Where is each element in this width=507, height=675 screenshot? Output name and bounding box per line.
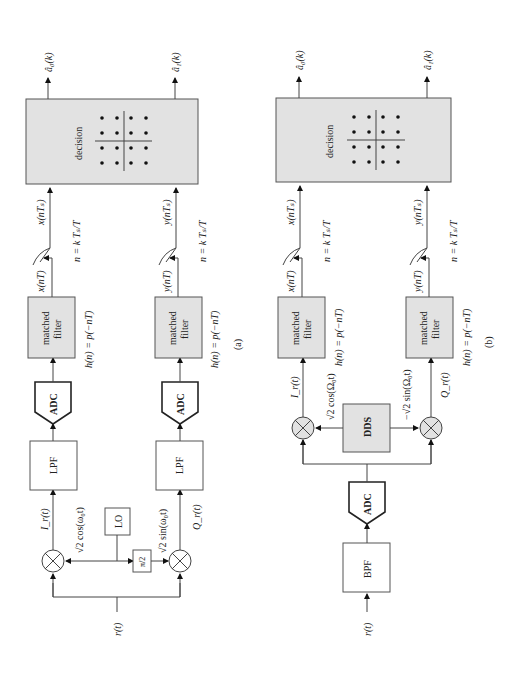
mf-i-label-1-a: matched (40, 311, 51, 345)
q-baseband-label-b: Q_r(t) (439, 372, 451, 398)
output-1-label-a: â₁(k) (170, 52, 182, 72)
y-nTs-label-b: y(nTₛ) (412, 199, 424, 226)
y-nT-label-a: y(nT) (161, 270, 173, 293)
input-label-a: r(t) (112, 622, 124, 636)
adc-i-label-a: ADC (48, 393, 59, 415)
impulse-response-i-a: h(n) = p(−nT) (83, 310, 95, 368)
bpf-label: BPF (362, 560, 373, 578)
caption-b: (b) (483, 336, 495, 348)
mixer-q-a (169, 550, 191, 572)
sin-carrier-label-b: −√2 sin(Ω₀t) (401, 369, 413, 420)
x-nT-label-b: x(nT) (285, 270, 297, 293)
mf-i-label-2-a: filter (52, 319, 63, 339)
mf-q-label-2-b: filter (430, 319, 441, 339)
output-0-label-b: â₀(k) (294, 50, 306, 70)
lpf-i-label: LPF (48, 456, 59, 474)
mixer-q-b (420, 417, 442, 439)
mf-q-label-2-a: filter (179, 319, 190, 339)
impulse-response-i-b: h(n) = p(−nT) (333, 308, 345, 366)
impulse-response-q-a: h(n) = p(−nT) (209, 310, 221, 368)
input-label-b: r(t) (362, 622, 374, 636)
output-1-label-b: â₁(k) (422, 50, 434, 70)
cos-carrier-label-a: √2 cos(ω₀t) (74, 507, 86, 553)
decision-label-a: decision (73, 127, 84, 160)
y-nT-label-b: y(nT) (412, 270, 424, 293)
phase-shift-label: π/2 (138, 557, 147, 567)
x-nT-label-a: x(nT) (35, 270, 47, 293)
sampler-q-arc-b (410, 248, 427, 265)
mf-i-label-1-b: matched (290, 311, 301, 345)
caption-a: (a) (232, 339, 244, 350)
sin-carrier-label-a: √2 sin(ω₀t) (157, 509, 169, 553)
sample-rule-i-b: n = k Tₛ/T (321, 219, 332, 262)
sample-rule-i-a: n = k Tₛ/T (71, 219, 82, 262)
mixer-i-a (42, 550, 64, 572)
x-nTs-label-a: x(nTₛ) (35, 199, 47, 226)
sample-rule-q-a: n = k Tₛ/T (197, 219, 208, 262)
cos-carrier-label-b: √2 cos(Ω₀t) (325, 373, 337, 420)
adc-q-label-a: ADC (175, 393, 186, 415)
mf-q-label-1-a: matched (167, 311, 178, 345)
lpf-q-label: LPF (174, 456, 185, 474)
adc-label-b: ADC (362, 493, 373, 515)
sampler-i-arc-b (283, 248, 300, 265)
decision-label-b: decision (324, 125, 335, 158)
sampler-i-arc (33, 248, 50, 265)
panel-a: r(t) LO π/2 √2 cos(ω₀t) √2 sin(ω₀t) I_r(… (26, 52, 244, 636)
sampler-q-arc (159, 248, 176, 265)
y-nTs-label-a: y(nTₛ) (161, 199, 173, 226)
receiver-block-diagrams: r(t) LO π/2 √2 cos(ω₀t) √2 sin(ω₀t) I_r(… (0, 0, 507, 675)
i-baseband-label-a: I_r(t) (39, 508, 51, 531)
impulse-response-q-b: h(n) = p(−nT) (461, 308, 473, 366)
x-nTs-label-b: x(nTₛ) (285, 199, 297, 226)
dds-label: DDS (362, 417, 373, 437)
mf-q-label-1-b: matched (418, 311, 429, 345)
i-baseband-label-b: I_r(t) (289, 376, 301, 399)
panel-b: r(t) BPF ADC DDS √2 cos(Ω₀t) −√2 sin(Ω₀t… (276, 50, 495, 636)
lo-label: LO (113, 515, 124, 528)
mixer-i-b (292, 417, 314, 439)
input-split-a (53, 583, 180, 597)
mf-i-label-2-b: filter (302, 319, 313, 339)
sample-rule-q-b: n = k Tₛ/T (448, 219, 459, 262)
output-0-label-a: â₀(k) (43, 52, 55, 72)
q-baseband-label-a: Q_r(t) (191, 504, 203, 530)
